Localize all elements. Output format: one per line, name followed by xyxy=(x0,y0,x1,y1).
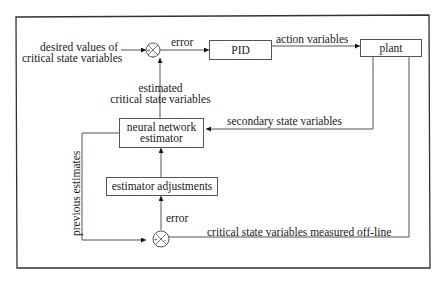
offline-measured-label: critical state variables measured off-li… xyxy=(207,227,391,238)
bottom-error-label: error xyxy=(166,213,188,224)
bottom-junction-minus: - xyxy=(164,235,166,246)
top-error-label: error xyxy=(171,37,193,48)
bottom-junction-plus: + xyxy=(154,235,157,246)
desired-line2: critical state variables xyxy=(22,53,118,64)
control-diagram: PID plant neural network estimator estim… xyxy=(0,0,443,281)
secondary-state-label: secondary state variables xyxy=(227,116,342,127)
estimated-line2: critical state variables xyxy=(108,94,213,105)
pid-block: PID xyxy=(209,40,272,60)
pid-label: PID xyxy=(231,45,250,56)
plant-label: plant xyxy=(380,43,403,54)
estimated-critical-label: estimated critical state variables xyxy=(108,83,213,105)
top-junction-minus: - xyxy=(152,52,154,63)
top-junction-plus: + xyxy=(147,46,150,57)
desired-values-label: desired values of critical state variabl… xyxy=(22,42,118,64)
plant-block: plant xyxy=(360,39,422,57)
estimator-adjustments-block: estimator adjustments xyxy=(106,177,218,196)
action-variables-label: action variables xyxy=(276,34,348,45)
previous-estimates-label: previous estimates xyxy=(71,151,82,236)
neural-network-estimator-block: neural network estimator xyxy=(119,118,204,148)
nn-label-line2: estimator xyxy=(140,133,183,144)
adjust-label: estimator adjustments xyxy=(112,181,213,192)
